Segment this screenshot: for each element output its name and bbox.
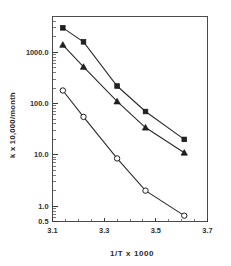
data-point-square [81, 40, 86, 45]
series-line-3 [63, 90, 184, 215]
data-point-open-circle [81, 114, 86, 119]
data-point-square [182, 137, 187, 142]
x-tick-label: 3.1 [47, 226, 57, 235]
data-point-square [61, 26, 66, 31]
y-tick-label: 1000.0 [26, 48, 49, 57]
data-point-open-circle [114, 156, 119, 161]
x-tick-label: 3.5 [151, 226, 161, 235]
y-axis-tick-labels: 1000.0100.010.01.00.5 [26, 48, 49, 226]
y-tick-label: 100.0 [30, 99, 49, 108]
x-tick-label: 3.3 [99, 226, 109, 235]
data-point-triangle [181, 150, 187, 156]
chart-plot-svg: 1000.0100.010.01.00.5 3.13.33.53.7 k x 1… [0, 0, 231, 266]
x-axis-title: 1/T x 1000 [110, 249, 154, 258]
x-tick-label: 3.7 [202, 226, 212, 235]
data-point-square [115, 84, 120, 89]
series-line-2 [63, 45, 184, 153]
x-axis-tick-labels: 3.13.33.53.7 [47, 226, 212, 235]
series-line-1 [63, 28, 184, 140]
data-series-2 [60, 42, 188, 155]
data-point-square [143, 109, 148, 114]
y-axis-ticks [53, 17, 58, 222]
plot-frame [53, 17, 208, 222]
data-point-triangle [60, 42, 66, 48]
data-point-open-circle [60, 88, 65, 93]
y-tick-label: 1.0 [38, 202, 48, 211]
y-tick-label: 10.0 [34, 150, 48, 159]
chart-figure: 1000.0100.010.01.00.5 3.13.33.53.7 k x 1… [0, 0, 231, 266]
data-point-open-circle [143, 188, 148, 193]
data-point-open-circle [182, 213, 187, 218]
data-series-1 [61, 26, 187, 142]
y-axis-title: k x 10,000/month [8, 92, 17, 158]
data-series-group [60, 26, 188, 219]
